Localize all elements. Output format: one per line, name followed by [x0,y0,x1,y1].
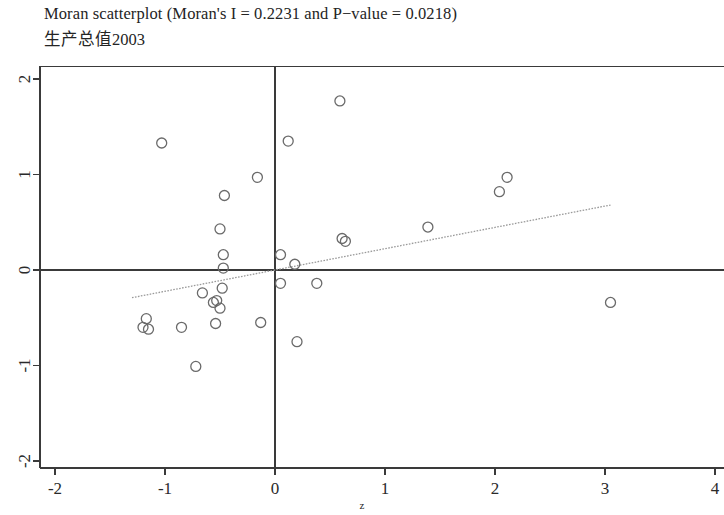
data-point [335,96,345,106]
x-tick-label: 0 [271,479,280,498]
axis-ticks-group [33,79,715,475]
data-point [197,288,207,298]
data-point [276,250,286,260]
scatterplot-canvas: -2-101234-2-1012 z [0,0,724,515]
data-point [218,263,228,273]
reference-lines-group [40,66,724,468]
x-tick-label: 2 [491,479,500,498]
y-tick-label: -1 [15,358,34,372]
data-point [144,324,154,334]
data-point [219,191,229,201]
x-axis-title: z [360,499,365,511]
x-tick-label: 3 [601,479,610,498]
data-point [256,318,266,328]
moran-scatterplot-page: Moran scatterplot (Moran's I = 0.2231 an… [0,0,724,515]
data-point [215,224,225,234]
x-tick-label: -2 [48,479,62,498]
x-tick-label: -1 [158,479,172,498]
data-point [191,361,201,371]
data-point [606,297,616,307]
y-tick-label: -2 [15,454,34,468]
data-point [423,222,433,232]
data-point [211,318,221,328]
data-point [218,250,228,260]
data-point [217,283,227,293]
lm-fit-line [132,205,611,298]
data-point [276,278,286,288]
x-tick-label: 4 [711,479,720,498]
data-point [138,322,148,332]
data-point [502,172,512,182]
data-point [208,297,218,307]
data-points-group [138,96,616,371]
data-point [177,322,187,332]
data-point [292,337,302,347]
y-tick-label: 1 [15,170,34,179]
axis-tick-labels-group: -2-101234-2-1012 [15,75,720,498]
data-point [312,278,322,288]
lm-fit-line-group [132,205,611,298]
y-tick-label: 0 [15,266,34,275]
y-tick-label: 2 [15,75,34,84]
data-point [290,259,300,269]
data-point [494,187,504,197]
data-point [283,136,293,146]
data-point [252,172,262,182]
x-tick-label: 1 [381,479,390,498]
data-point [157,138,167,148]
axis-frame [40,66,724,468]
